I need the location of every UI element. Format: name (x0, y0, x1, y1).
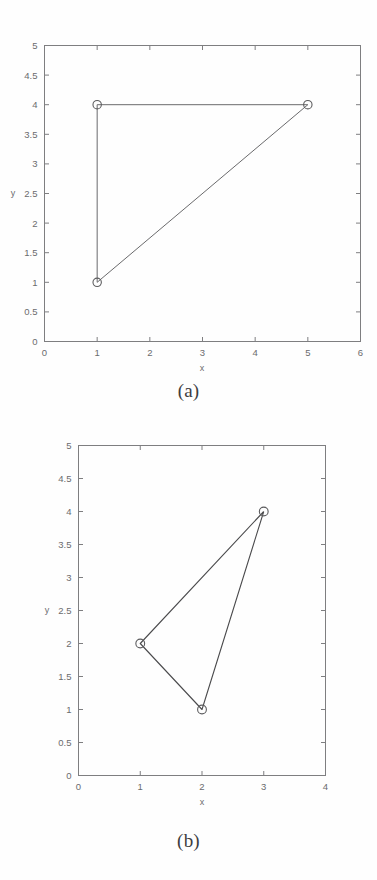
y-tick-label: 4.5 (24, 70, 37, 81)
chart-b-canvas: 0123400.511.522.533.544.55 x y (0, 425, 377, 815)
y-tick-label: 4 (32, 99, 37, 110)
chart-b-polygon (140, 512, 264, 710)
x-tick-label: 0 (42, 347, 47, 358)
y-tick-label: 3.5 (24, 129, 37, 140)
y-tick-label: 3 (66, 572, 71, 583)
figure-page: 012345600.511.522.533.544.55 x y (a) 012… (0, 0, 377, 880)
chart-a-caption: (a) (0, 380, 377, 402)
x-tick-label: 2 (147, 347, 152, 358)
x-tick-label: 3 (200, 347, 205, 358)
y-tick-label: 0 (66, 770, 71, 781)
chart-b-tick-labels: 0123400.511.522.533.544.55 (58, 440, 328, 792)
y-tick-label: 5 (32, 40, 37, 51)
x-tick-label: 4 (323, 781, 328, 792)
y-tick-label: 3 (32, 158, 37, 169)
chart-a-xlabel: x (200, 363, 205, 373)
chart-b-markers (136, 507, 268, 714)
y-tick-label: 1.5 (24, 247, 37, 258)
x-tick-label: 5 (305, 347, 310, 358)
y-tick-label: 2.5 (58, 605, 71, 616)
chart-a-ylabel: y (11, 188, 16, 198)
chart-a-polygon (97, 105, 308, 283)
chart-b-caption: (b) (0, 830, 377, 852)
chart-b-ylabel: y (45, 605, 50, 615)
x-tick-label: 6 (358, 347, 363, 358)
chart-panel-a: 012345600.511.522.533.544.55 x y (a) (0, 0, 377, 380)
y-tick-label: 2 (32, 218, 37, 229)
chart-a-canvas: 012345600.511.522.533.544.55 x y (0, 0, 377, 380)
x-tick-label: 4 (253, 347, 258, 358)
y-tick-label: 0 (32, 336, 37, 347)
y-tick-label: 2.5 (24, 188, 37, 199)
chart-panel-b: 0123400.511.522.533.544.55 x y (b) (0, 425, 377, 815)
chart-a-tick-labels: 012345600.511.522.533.544.55 (24, 40, 363, 358)
y-tick-label: 1 (32, 277, 37, 288)
y-tick-label: 2 (66, 638, 71, 649)
x-tick-label: 1 (138, 781, 143, 792)
x-tick-label: 2 (199, 781, 204, 792)
chart-b-ticks (79, 446, 326, 776)
y-tick-label: 1.5 (58, 671, 71, 682)
y-tick-label: 1 (66, 704, 71, 715)
x-tick-label: 0 (76, 781, 81, 792)
y-tick-label: 4 (66, 506, 71, 517)
x-tick-label: 3 (261, 781, 266, 792)
y-tick-label: 4.5 (58, 473, 71, 484)
y-tick-label: 0.5 (58, 737, 71, 748)
chart-b-xlabel: x (200, 797, 205, 807)
y-tick-label: 5 (66, 440, 71, 451)
y-tick-label: 3.5 (58, 539, 71, 550)
x-tick-label: 1 (95, 347, 100, 358)
chart-b-axis-box (79, 446, 326, 776)
y-tick-label: 0.5 (24, 306, 37, 317)
